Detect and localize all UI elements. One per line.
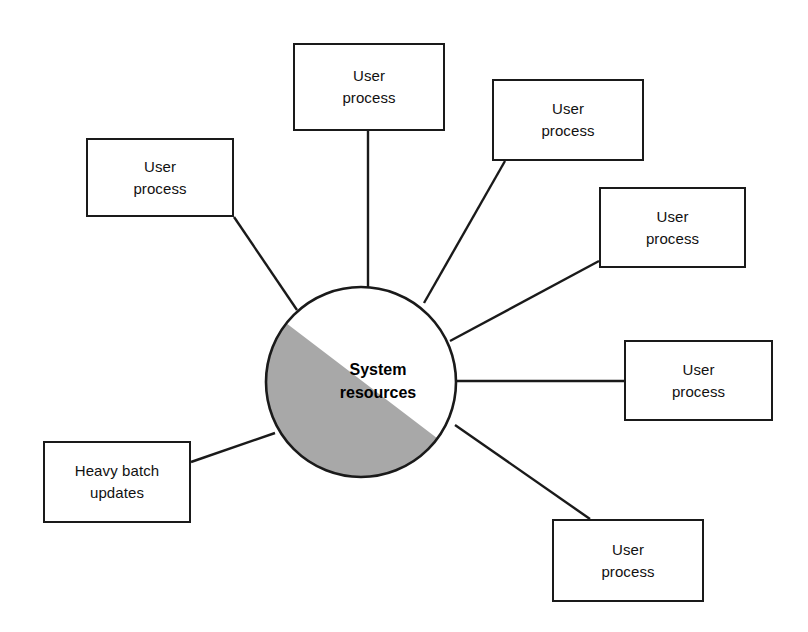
- node-label-right-upper: User process: [646, 206, 699, 250]
- connector-upper-left: [234, 217, 297, 310]
- node-box-upper-right[interactable]: User process: [492, 79, 644, 161]
- node-label-bottom-right: User process: [601, 539, 654, 583]
- node-box-right-middle[interactable]: User process: [624, 340, 773, 421]
- node-box-bottom-right[interactable]: User process: [552, 519, 704, 602]
- node-box-right-upper[interactable]: User process: [599, 187, 746, 268]
- node-box-upper-left[interactable]: User process: [86, 138, 234, 217]
- connector-lower-left: [191, 433, 275, 462]
- node-box-top[interactable]: User process: [293, 43, 445, 131]
- node-label-top: User process: [342, 65, 395, 109]
- hub-circle: [240, 287, 456, 500]
- node-label-upper-right: User process: [541, 98, 594, 142]
- node-label-lower-left: Heavy batch updates: [75, 460, 159, 504]
- connector-bottom-right: [455, 425, 590, 519]
- connector-right-upper: [450, 261, 599, 341]
- node-label-upper-left: User process: [133, 156, 186, 200]
- node-box-lower-left[interactable]: Heavy batch updates: [43, 441, 191, 523]
- diagram-canvas: System resources User process User proce…: [0, 0, 808, 632]
- connector-upper-right: [424, 161, 505, 303]
- node-label-right-middle: User process: [672, 359, 725, 403]
